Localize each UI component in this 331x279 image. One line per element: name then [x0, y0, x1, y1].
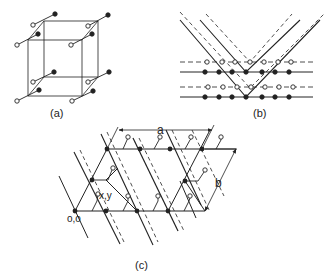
basis-position-label: x,y: [99, 190, 112, 201]
panel-a-label: (a): [50, 107, 63, 119]
panel-c-label: (c): [135, 259, 148, 271]
origin-label: o,o: [67, 213, 81, 224]
panel-b-rows: [180, 62, 313, 97]
panel-b-v-lines: [180, 12, 324, 97]
dimension-b-label: b: [215, 176, 222, 190]
figure-canvas: (a): [0, 0, 331, 279]
dimension-a-label: a: [157, 123, 164, 137]
panel-a-dumbbells: [15, 12, 111, 103]
panel-b-label: (b): [253, 107, 266, 119]
